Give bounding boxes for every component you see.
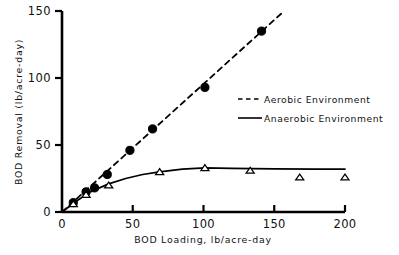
x-tick-label-150: 150: [263, 217, 286, 231]
chart-canvas: 050100150 050100150200 BOD Loading, lb/a…: [0, 0, 399, 255]
x-tick-label-100: 100: [192, 217, 215, 231]
legend-label-aerobic: Aerobic Environment: [264, 94, 370, 105]
data-point-aerobic-environment-4: [126, 146, 134, 154]
x-axis-title: BOD Loading, lb/acre-day: [134, 234, 271, 245]
y-tick-label-150: 150: [28, 4, 51, 18]
data-point-aerobic-environment-6: [201, 83, 209, 91]
x-tick-label-50: 50: [125, 217, 140, 231]
y-tick-label-50: 50: [36, 138, 51, 152]
data-point-aerobic-environment-5: [148, 125, 156, 133]
x-tick-label-200: 200: [333, 217, 356, 231]
y-tick-label-100: 100: [28, 71, 51, 85]
y-axis-title: BOD Removal (lb/acre-day): [13, 39, 24, 185]
y-tick-label-0: 0: [43, 205, 51, 219]
legend-label-anaerobic: Anaerobic Environment: [264, 113, 383, 124]
x-tick-label-0: 0: [58, 217, 66, 231]
data-point-aerobic-environment-7: [257, 27, 265, 35]
data-point-aerobic-environment-2: [90, 184, 98, 192]
data-point-aerobic-environment-3: [103, 170, 111, 178]
chart-figure: 050100150 050100150200 BOD Loading, lb/a…: [0, 0, 399, 255]
